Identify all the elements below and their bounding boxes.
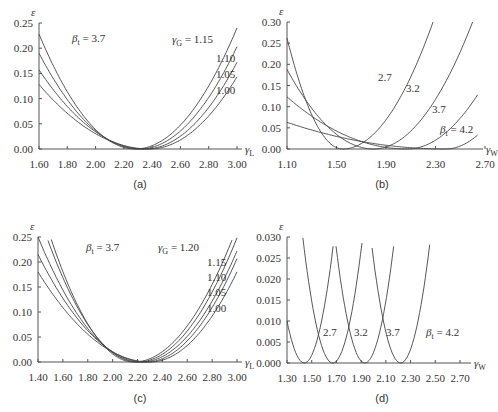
data-curve bbox=[372, 245, 430, 363]
x-axis-label: γL bbox=[245, 143, 254, 158]
data-curve bbox=[39, 28, 237, 149]
curve-label: 1.00 bbox=[216, 84, 236, 96]
y-tick-label: 0.05 bbox=[14, 118, 34, 130]
x-tick-label: 1.80 bbox=[58, 158, 78, 170]
beta-annotation: βt = 3.7 bbox=[85, 241, 120, 256]
y-axis-label: ε bbox=[279, 5, 284, 17]
curve-label: 1.15 bbox=[207, 256, 227, 268]
x-tick-label: 1.60 bbox=[53, 371, 73, 383]
x-tick-label: 2.20 bbox=[114, 158, 134, 170]
y-tick-label: 0.00 bbox=[14, 143, 34, 155]
y-tick-label: 0.05 bbox=[262, 122, 282, 134]
chart-panel-b: 0.000.050.100.150.200.250.301.101.501.90… bbox=[262, 5, 498, 190]
panel-caption: (d) bbox=[375, 392, 388, 404]
curve-label: 3.7 bbox=[432, 103, 446, 115]
y-tick-label: 0.20 bbox=[14, 42, 34, 54]
x-tick-label: 2.80 bbox=[203, 371, 223, 383]
x-tick-label: 2.40 bbox=[143, 158, 163, 170]
y-tick-label: 0.20 bbox=[13, 256, 33, 268]
y-tick-label: 0.20 bbox=[262, 58, 282, 70]
x-tick-label: 1.90 bbox=[352, 372, 372, 384]
y-tick-label: 0.025 bbox=[256, 252, 281, 264]
x-axis-label: γL bbox=[245, 356, 254, 371]
panel-caption: (a) bbox=[133, 178, 146, 190]
x-axis-label: γW bbox=[474, 357, 486, 372]
x-tick-label: 2.50 bbox=[426, 372, 446, 384]
curve-label: 1.05 bbox=[216, 68, 236, 80]
y-tick-label: 0.005 bbox=[256, 336, 281, 348]
y-tick-label: 0.000 bbox=[256, 357, 281, 369]
x-tick-label: 1.90 bbox=[376, 158, 396, 170]
y-tick-label: 0.15 bbox=[14, 67, 34, 79]
curve-label: 2.7 bbox=[323, 326, 337, 338]
x-tick-label: 1.30 bbox=[277, 372, 297, 384]
curve-label: 1.05 bbox=[207, 286, 227, 298]
y-tick-label: 0.10 bbox=[14, 93, 34, 105]
x-tick-label: 2.80 bbox=[199, 158, 219, 170]
y-tick-label: 0.030 bbox=[256, 231, 281, 243]
x-tick-label: 2.60 bbox=[171, 158, 191, 170]
x-tick-label: 2.60 bbox=[178, 371, 198, 383]
x-tick-label: 2.70 bbox=[475, 158, 495, 170]
y-tick-label: 0.15 bbox=[262, 80, 282, 92]
chart-figure: 0.000.050.100.150.200.251.601.802.002.20… bbox=[0, 0, 498, 412]
x-tick-label: 2.40 bbox=[153, 371, 173, 383]
x-axis-label: γW bbox=[486, 143, 498, 158]
panel-caption: (c) bbox=[134, 392, 147, 404]
beta-annotation: βt = 4.2 bbox=[425, 326, 459, 341]
chart-panel-d: 0.0000.0050.0100.0150.0200.0250.0301.301… bbox=[256, 220, 486, 404]
curve-label: 3.2 bbox=[406, 82, 420, 94]
data-curve bbox=[39, 62, 237, 149]
x-tick-label: 2.10 bbox=[376, 372, 396, 384]
chart-panel-a: 0.000.050.100.150.200.251.601.802.002.20… bbox=[14, 6, 255, 190]
axes bbox=[287, 237, 471, 363]
curve-label: 1.10 bbox=[207, 271, 227, 283]
x-tick-label: 2.30 bbox=[426, 158, 446, 170]
y-tick-label: 0.10 bbox=[262, 101, 282, 113]
x-tick-label: 1.70 bbox=[327, 372, 347, 384]
y-axis-label: ε bbox=[31, 6, 36, 18]
x-tick-label: 2.00 bbox=[86, 158, 106, 170]
x-tick-label: 2.30 bbox=[401, 372, 421, 384]
y-tick-label: 0.00 bbox=[262, 143, 282, 155]
y-tick-label: 0.25 bbox=[14, 17, 34, 29]
x-tick-label: 1.50 bbox=[327, 158, 347, 170]
y-tick-label: 0.05 bbox=[13, 331, 33, 343]
x-tick-label: 1.10 bbox=[277, 158, 297, 170]
x-tick-label: 1.80 bbox=[78, 371, 98, 383]
y-tick-label: 0.00 bbox=[13, 356, 33, 368]
y-tick-label: 0.010 bbox=[256, 315, 281, 327]
x-tick-label: 1.40 bbox=[28, 371, 48, 383]
chart-panel-c: 0.000.050.100.150.200.251.401.601.802.00… bbox=[13, 220, 255, 404]
curve-label: 1.00 bbox=[207, 302, 227, 314]
x-tick-label: 3.00 bbox=[227, 158, 247, 170]
x-tick-label: 1.60 bbox=[29, 158, 49, 170]
data-curve bbox=[51, 240, 232, 363]
x-tick-label: 1.50 bbox=[302, 372, 322, 384]
gamma-g-annotation: γG = 1.15 bbox=[172, 33, 214, 48]
x-tick-label: 2.00 bbox=[103, 371, 123, 383]
y-axis-label: ε bbox=[279, 220, 284, 232]
y-tick-label: 0.25 bbox=[262, 37, 282, 49]
y-axis-label: ε bbox=[30, 220, 35, 232]
curve-label: 3.2 bbox=[354, 326, 368, 338]
y-tick-label: 0.015 bbox=[256, 294, 281, 306]
data-curve bbox=[287, 246, 333, 363]
curve-label: 3.7 bbox=[386, 326, 400, 338]
curve-label: 2.7 bbox=[378, 71, 392, 83]
data-curve bbox=[336, 246, 394, 363]
x-tick-label: 2.70 bbox=[450, 372, 470, 384]
panel-caption: (b) bbox=[375, 178, 388, 190]
y-tick-label: 0.25 bbox=[13, 231, 33, 243]
y-tick-label: 0.020 bbox=[256, 273, 281, 285]
curve-label: 1.10 bbox=[216, 52, 236, 64]
y-tick-label: 0.15 bbox=[13, 281, 33, 293]
x-tick-label: 2.20 bbox=[128, 371, 148, 383]
x-tick-label: 3.00 bbox=[227, 371, 247, 383]
data-curve bbox=[39, 47, 237, 149]
beta-annotation: βt = 3.7 bbox=[71, 32, 106, 47]
gamma-g-annotation: γG = 1.20 bbox=[158, 241, 200, 256]
y-tick-label: 0.30 bbox=[262, 16, 282, 28]
beta-annotation: βt = 4.2 bbox=[439, 123, 473, 138]
y-tick-label: 0.10 bbox=[13, 306, 33, 318]
